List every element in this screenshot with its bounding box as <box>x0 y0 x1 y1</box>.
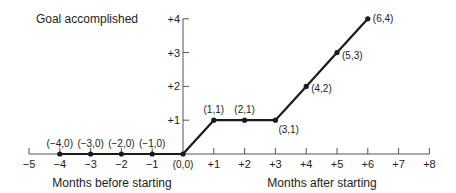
chart-canvas: −5−4−3−2−1+1+2+3+4+5+6+7+8+1+2+3+4 (−4,0… <box>0 0 456 193</box>
data-point-label: (2,1) <box>234 104 255 115</box>
data-point <box>242 118 247 123</box>
data-point-label: (5,3) <box>342 50 363 61</box>
data-point <box>88 151 93 156</box>
data-point-label: (−4,0) <box>47 138 73 149</box>
x-axis-title-right: Months after starting <box>267 176 376 190</box>
y-tick-label: +1 <box>167 114 180 126</box>
data-point <box>273 118 278 123</box>
y-tick-label: +4 <box>167 13 180 25</box>
x-tick-label: +4 <box>300 158 313 170</box>
data-point <box>334 50 339 55</box>
data-point-label: (−2,0) <box>108 138 134 149</box>
y-tick-label: +3 <box>167 47 180 59</box>
data-point <box>57 151 62 156</box>
data-point <box>119 151 124 156</box>
x-tick-label: +7 <box>392 158 405 170</box>
x-tick-label: −2 <box>115 158 128 170</box>
x-tick-label: +6 <box>362 158 375 170</box>
y-axis-title: Goal accomplished <box>36 12 138 26</box>
x-axis-title-left: Months before starting <box>52 176 171 190</box>
progress-chart: −5−4−3−2−1+1+2+3+4+5+6+7+8+1+2+3+4 (−4,0… <box>0 0 456 193</box>
x-tick-label: −4 <box>54 158 67 170</box>
data-point-label: (−1,0) <box>139 138 165 149</box>
data-point-label: (−3,0) <box>77 138 103 149</box>
x-tick-label: −3 <box>84 158 97 170</box>
x-tick-label: +5 <box>331 158 344 170</box>
data-point-label: (0,0) <box>173 159 194 170</box>
data-point <box>365 16 370 21</box>
data-point <box>304 84 309 89</box>
data-point-label: (3,1) <box>278 124 299 135</box>
x-tick-label: +1 <box>208 158 221 170</box>
data-point-label: (1,1) <box>204 104 225 115</box>
data-point-label: (6,4) <box>373 13 394 24</box>
x-tick-label: +2 <box>238 158 251 170</box>
y-tick-label: +2 <box>167 80 180 92</box>
data-point <box>211 118 216 123</box>
data-point <box>150 151 155 156</box>
x-tick-label: +3 <box>269 158 282 170</box>
x-tick-label: +8 <box>423 158 436 170</box>
x-tick-label: −5 <box>23 158 36 170</box>
x-tick-label: −1 <box>146 158 159 170</box>
data-point-label: (4,2) <box>311 83 332 94</box>
point-labels: (−4,0)(−3,0)(−2,0)(−1,0)(0,0)(1,1)(2,1)(… <box>47 13 394 170</box>
data-point <box>180 151 185 156</box>
